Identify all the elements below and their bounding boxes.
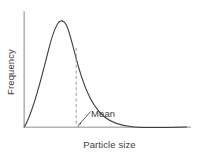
frequency-distribution-figure: Frequency Particle size Mean (0, 0, 197, 160)
plot-canvas (0, 0, 197, 160)
x-axis-label: Particle size (0, 140, 197, 150)
y-axis-label-text: Frequency (6, 49, 16, 95)
mean-annotation-label: Mean (91, 109, 115, 119)
